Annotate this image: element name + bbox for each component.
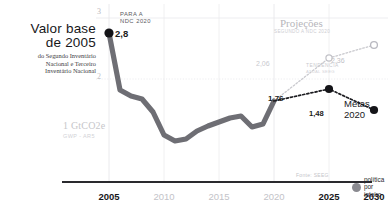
- legend-dot-icon: [352, 183, 361, 192]
- grid-horizontal: [96, 18, 388, 79]
- value-label-projection-2025: 2,06: [256, 60, 270, 67]
- legend-label-line1: política: [364, 176, 388, 183]
- metas-label: Metas 2020: [344, 98, 370, 120]
- point-target-2025: [325, 85, 333, 93]
- y-axis-tick-2: 2: [97, 72, 101, 81]
- chart-subtitle-line2: Nacional e Terceiro: [4, 60, 96, 68]
- x-axis-tick-2005: 2005: [98, 191, 119, 202]
- ndc-note: PARA A NDC 2020: [120, 11, 151, 25]
- trend-sublabel: ATUAL SEEG: [306, 69, 335, 74]
- value-label-2005: 2,8: [115, 28, 128, 39]
- source-label: Fonte: SEEG: [296, 172, 329, 178]
- legend-label: política por inteiro: [364, 176, 388, 198]
- value-label-target-2030: 1,48: [309, 109, 324, 118]
- point-base-2005: [104, 28, 113, 37]
- x-axis-tick-2010: 2010: [153, 191, 174, 202]
- point-target-2030: [370, 106, 378, 114]
- projections-label: Projeções: [280, 17, 323, 29]
- x-axis-tick-2025: 2025: [318, 191, 339, 202]
- point-projection-2030: [371, 42, 378, 49]
- chart-title-line1: Valor base: [30, 21, 96, 36]
- value-label-target-2025: 1,76: [268, 94, 284, 103]
- emissions-chart: Valor base de 2005 do Segundo Inventário…: [0, 0, 388, 212]
- chart-subtitle: do Segundo Inventário Nacional e Terceir…: [4, 52, 96, 75]
- x-axis-tick-2015: 2015: [208, 191, 229, 202]
- x-axis-tick-2020: 2020: [263, 191, 284, 202]
- y-axis-tick-3: 3: [97, 7, 101, 16]
- metas-label-line1: Metas: [344, 98, 370, 109]
- ndc-note-line2: NDC 2020: [120, 18, 151, 25]
- chart-subtitle-line3: Inventário Nacional: [4, 67, 96, 75]
- y-axis-unit-label: 1 GtCO2e: [63, 120, 105, 131]
- chart-title-line2: de 2005: [4, 36, 96, 50]
- projections-sublabel: SEGUNDO A NDC 2020: [274, 29, 330, 34]
- chart-title-block: Valor base de 2005 do Segundo Inventário…: [4, 22, 96, 75]
- ndc-note-line1: PARA A: [120, 11, 151, 18]
- series-historical: [109, 33, 274, 141]
- chart-subtitle-line1: do Segundo Inventário: [4, 52, 96, 60]
- trend-label: TENDÊNCIA: [306, 63, 339, 68]
- chart-title: Valor base de 2005: [4, 22, 96, 49]
- metas-label-line2: 2020: [344, 109, 370, 120]
- legend-label-line2: por inteiro: [364, 183, 388, 198]
- legend: política por inteiro: [352, 176, 388, 198]
- y-axis-unit-sublabel: GWP - AR5: [63, 133, 95, 139]
